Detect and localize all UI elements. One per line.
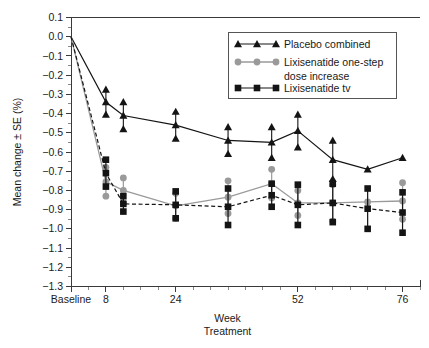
data-point-marker bbox=[120, 175, 127, 182]
data-point-marker bbox=[102, 86, 110, 93]
data-point-marker bbox=[273, 59, 280, 66]
data-point-marker bbox=[364, 185, 371, 192]
chart-legend: Placebo combinedLixisenatide one-stepdos… bbox=[228, 32, 396, 98]
data-point-marker bbox=[295, 222, 302, 229]
y-tick-label: −0.8 bbox=[42, 184, 63, 196]
data-point-marker bbox=[268, 154, 276, 161]
y-tick-label: −1.0 bbox=[42, 222, 63, 234]
x-tick-label: Baseline bbox=[51, 293, 91, 305]
data-point-marker bbox=[120, 208, 127, 215]
data-point-marker bbox=[268, 180, 275, 187]
data-point-marker bbox=[295, 181, 302, 188]
data-point-marker bbox=[329, 200, 336, 207]
y-tick-label: −0.3 bbox=[42, 88, 63, 100]
data-point-marker bbox=[103, 183, 110, 190]
data-point-marker bbox=[172, 108, 180, 115]
x-tick-label: 24 bbox=[170, 293, 182, 305]
x-axis-title: Week bbox=[214, 312, 241, 324]
data-point-marker bbox=[172, 202, 179, 209]
legend-label: Lixisenatide tv bbox=[284, 82, 351, 94]
data-point-marker bbox=[399, 189, 406, 196]
data-point-marker bbox=[172, 135, 180, 142]
data-point-marker bbox=[273, 85, 280, 92]
y-tick-label: −0.4 bbox=[42, 107, 63, 119]
data-point-marker bbox=[172, 188, 179, 195]
data-point-marker bbox=[225, 203, 232, 210]
y-tick-label: 0.0 bbox=[48, 30, 63, 42]
y-tick-label: −0.6 bbox=[42, 146, 63, 158]
data-point-marker bbox=[295, 202, 302, 209]
data-point-marker bbox=[224, 123, 232, 130]
y-tick-label: −1.2 bbox=[42, 261, 63, 273]
data-point-marker bbox=[329, 180, 336, 187]
data-point-marker bbox=[172, 215, 179, 222]
x-tick-label: 8 bbox=[103, 293, 109, 305]
data-point-marker bbox=[268, 192, 275, 199]
legend-label: Placebo combined bbox=[284, 38, 371, 50]
data-point-marker bbox=[294, 127, 302, 134]
y-tick-label: 0.1 bbox=[48, 11, 63, 23]
data-point-marker bbox=[364, 226, 371, 233]
data-point-marker bbox=[120, 187, 127, 194]
x-tick-label: 52 bbox=[292, 293, 304, 305]
chart-figure: 0.10.0−0.1−0.2−0.3−0.4−0.5−0.6−0.7−0.8−0… bbox=[0, 0, 429, 348]
data-point-marker bbox=[102, 98, 110, 105]
data-point-marker bbox=[235, 85, 242, 92]
data-point-marker bbox=[225, 222, 232, 229]
data-point-marker bbox=[119, 125, 127, 132]
data-point-marker bbox=[268, 166, 275, 173]
legend-label-line2: dose increase bbox=[284, 70, 350, 82]
y-tick-label: −0.1 bbox=[42, 50, 63, 62]
line-chart: 0.10.0−0.1−0.2−0.3−0.4−0.5−0.6−0.7−0.8−0… bbox=[0, 0, 429, 348]
data-point-marker bbox=[268, 123, 276, 130]
data-point-marker bbox=[103, 193, 110, 200]
legend-label: Lixisenatide one-step bbox=[284, 56, 383, 68]
data-point-marker bbox=[364, 205, 371, 212]
data-point-marker bbox=[254, 59, 261, 66]
data-point-marker bbox=[102, 111, 110, 118]
x-tick-label: 76 bbox=[397, 293, 409, 305]
y-tick-label: −0.2 bbox=[42, 69, 63, 81]
data-point-marker bbox=[329, 136, 337, 143]
x-axis-subtitle: Treatment bbox=[204, 325, 252, 337]
data-point-marker bbox=[103, 156, 110, 163]
data-point-marker bbox=[225, 185, 232, 192]
y-tick-label: −0.5 bbox=[42, 126, 63, 138]
data-point-marker bbox=[235, 59, 242, 66]
data-point-marker bbox=[399, 154, 407, 161]
data-point-marker bbox=[268, 203, 275, 210]
data-point-marker bbox=[225, 177, 232, 184]
data-point-marker bbox=[120, 201, 127, 208]
data-point-marker bbox=[294, 111, 302, 118]
data-point-marker bbox=[399, 179, 406, 186]
data-point-marker bbox=[103, 170, 110, 177]
data-point-marker bbox=[120, 193, 127, 200]
y-tick-label: −1.3 bbox=[42, 280, 63, 292]
data-point-marker bbox=[399, 209, 406, 216]
data-point-marker bbox=[119, 98, 127, 105]
y-tick-label: −0.7 bbox=[42, 165, 63, 177]
data-point-marker bbox=[329, 219, 336, 226]
data-point-marker bbox=[224, 150, 232, 157]
data-point-marker bbox=[399, 229, 406, 236]
data-point-marker bbox=[119, 111, 127, 118]
y-tick-label: −0.9 bbox=[42, 203, 63, 215]
data-point-marker bbox=[254, 85, 261, 92]
y-tick-label: −1.1 bbox=[42, 242, 63, 254]
data-point-marker bbox=[294, 143, 302, 150]
y-axis-title: Mean change ± SE (%) bbox=[11, 98, 23, 206]
